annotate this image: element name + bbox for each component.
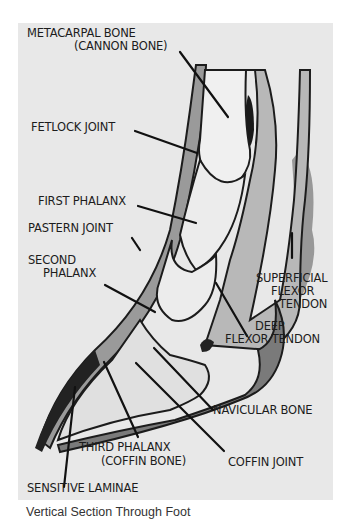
label-deep-flexor-2: FLEXOR TENDON	[225, 333, 320, 346]
label-superficial-flexor-3: TENDON	[279, 298, 327, 311]
label-navicular-bone: NAVICULAR BONE	[213, 404, 312, 417]
label-fetlock-joint: FETLOCK JOINT	[31, 121, 115, 134]
label-first-phalanx: FIRST PHALANX	[38, 195, 126, 208]
label-third-phalanx: THIRD PHALANX	[79, 441, 170, 454]
label-pastern-joint: PASTERN JOINT	[28, 222, 113, 235]
figure-caption: Vertical Section Through Foot	[26, 505, 190, 519]
label-coffin-bone: (COFFIN BONE)	[101, 455, 186, 468]
label-second-phalanx-2: PHALANX	[43, 267, 96, 280]
navicular-bone	[200, 339, 214, 352]
label-sensitive-laminae: SENSITIVE LAMINAE	[27, 482, 138, 495]
label-coffin-joint: COFFIN JOINT	[228, 456, 303, 469]
label-cannon-bone: (CANNON BONE)	[74, 40, 167, 53]
